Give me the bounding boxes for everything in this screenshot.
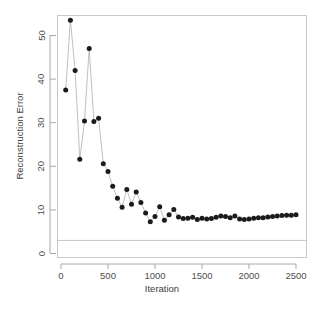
data-point [96,116,101,121]
data-point [251,216,256,221]
x-tick-label: 0 [58,270,63,281]
data-point [157,204,162,209]
data-point [106,169,111,174]
data-point [279,213,284,218]
data-point [218,214,223,219]
data-point [247,217,252,222]
y-tick-label: 30 [36,117,47,128]
x-tick-label: 1000 [144,270,165,281]
data-point [270,214,275,219]
data-point [204,217,209,222]
data-point [68,18,73,23]
data-point [284,213,289,218]
data-point [190,215,195,220]
data-point [82,118,87,123]
data-point [228,215,233,220]
data-point [232,214,237,219]
data-point [77,157,82,162]
data-point [181,216,186,221]
y-axis-title: Reconstruction Error [14,92,25,179]
y-tick-label: 20 [36,161,47,172]
x-tick-label: 2500 [285,270,306,281]
y-tick-label: 10 [36,205,47,216]
data-point [63,88,68,93]
y-tick-label: 40 [36,74,47,85]
data-point [167,212,172,217]
reconstruction-error-plot: 01020304050 05001000150020002500 Iterati… [0,0,327,320]
data-point [120,205,125,210]
data-point [153,214,158,219]
data-point [115,196,120,201]
data-point [223,214,228,219]
data-point [148,219,153,224]
data-point [185,216,190,221]
data-point [87,46,92,51]
y-tick-label: 50 [36,30,47,41]
data-point [294,212,299,217]
data-point [275,214,280,219]
data-point [195,217,200,222]
x-tick-label: 1500 [191,270,212,281]
data-point [261,215,266,220]
data-point [289,213,294,218]
x-axis-title: Iteration [145,283,179,294]
data-point [209,216,214,221]
data-point [176,214,181,219]
data-point [138,200,143,205]
data-point [200,216,205,221]
chart-figure: 01020304050 05001000150020002500 Iterati… [0,0,327,320]
data-point [101,161,106,166]
data-point [256,215,261,220]
data-point [162,218,167,223]
data-point [73,68,78,73]
data-point [91,119,96,124]
data-point [214,215,219,220]
data-point [110,184,115,189]
x-tick-label: 500 [100,270,116,281]
data-point [134,190,139,195]
y-tick-label: 0 [36,251,47,256]
data-point [242,217,247,222]
data-point [265,214,270,219]
x-tick-label: 2000 [238,270,259,281]
data-point [124,187,129,192]
data-point [171,207,176,212]
data-point [143,210,148,215]
data-point [129,202,134,207]
data-point [237,217,242,222]
